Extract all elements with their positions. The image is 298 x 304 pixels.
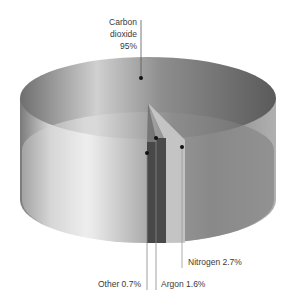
dot-nitrogen	[180, 145, 184, 149]
label-co2-value: 95%	[77, 40, 137, 52]
label-co2-line1: Carbon	[77, 16, 137, 28]
label-co2-line2: dioxide	[77, 28, 137, 40]
cylinder-pie-chart	[0, 0, 298, 304]
dot-argon	[154, 136, 158, 140]
dot-other	[145, 151, 149, 155]
slice-argon	[156, 138, 166, 243]
label-argon: Argon 1.6%	[161, 278, 205, 290]
label-nitrogen: Nitrogen 2.7%	[188, 256, 242, 268]
label-co2: Carbon dioxide 95%	[77, 16, 137, 52]
dot-co2	[139, 76, 143, 80]
label-other: Other 0.7%	[98, 278, 141, 290]
